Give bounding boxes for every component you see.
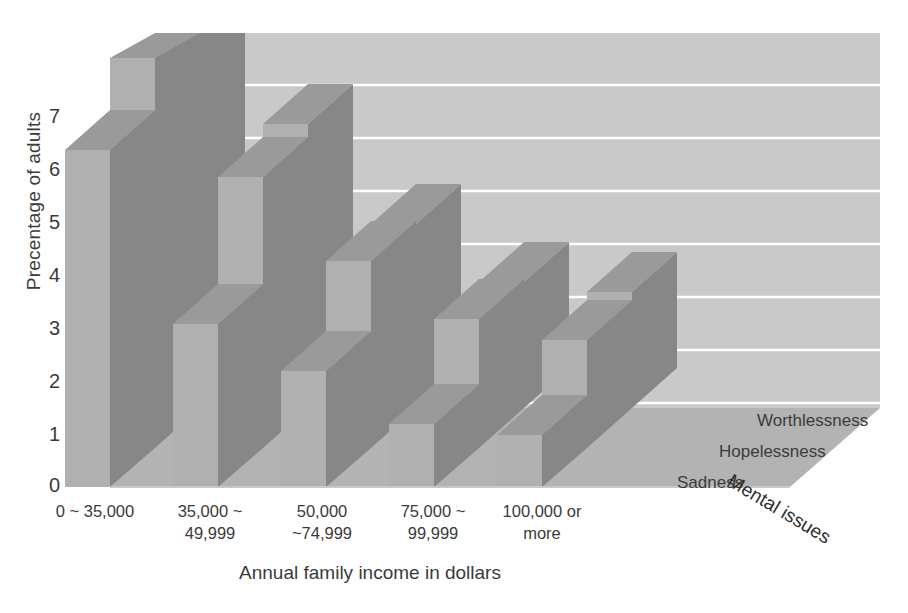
series-label-worthlessness: Worthlessness bbox=[757, 411, 868, 431]
x-tick-4-line2: more bbox=[472, 522, 612, 544]
y-tick-0: 0 bbox=[20, 474, 60, 497]
x-axis-title: Annual family income in dollars bbox=[90, 562, 650, 584]
x-tick-4-line1: 100,000 or bbox=[472, 500, 612, 522]
chart-3d-bar: 7 6 5 4 3 2 1 0 Precentage of adults 0 ~… bbox=[0, 0, 908, 613]
y-tick-2: 2 bbox=[20, 370, 60, 393]
y-axis-title: Precentage of adults bbox=[23, 91, 45, 311]
y-tick-3: 3 bbox=[20, 317, 60, 340]
x-tick-4: 100,000 or more bbox=[472, 500, 612, 544]
y-tick-1: 1 bbox=[20, 423, 60, 446]
series-label-hopelessness: Hopelessness bbox=[719, 442, 826, 462]
